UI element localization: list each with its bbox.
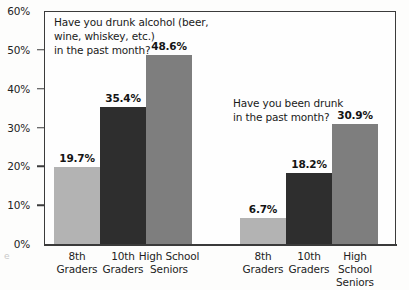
question-label-alcohol: Have you drunk alcohol (beer, wine, whis… xyxy=(54,15,209,58)
y-tick-label: 30% xyxy=(7,122,30,134)
x-category-label: 8th Graders xyxy=(57,250,98,276)
y-tick-label: 10% xyxy=(7,199,30,211)
bar xyxy=(100,107,146,244)
bar xyxy=(146,55,192,244)
bar-value-label: 19.7% xyxy=(59,152,94,164)
bar-value-label: 18.2% xyxy=(291,158,326,170)
x-category-label: 10th Graders xyxy=(103,250,144,276)
y-axis: 60%50%40%30%20%10%0% xyxy=(0,0,44,290)
bar xyxy=(286,173,332,244)
x-category-label: High School Seniors xyxy=(139,250,200,276)
x-category-label: 10th Graders xyxy=(289,250,330,276)
y-tick-label: 40% xyxy=(7,83,30,95)
x-category-label: 8th Graders xyxy=(243,250,284,276)
y-tick-label: 20% xyxy=(7,160,30,172)
bar xyxy=(332,124,378,244)
y-tick-label: 0% xyxy=(14,238,30,250)
bar xyxy=(240,218,286,244)
x-category-label: High School Seniors xyxy=(328,250,382,289)
bar-value-label: 6.7% xyxy=(249,203,277,215)
y-tick-label: 60% xyxy=(7,5,30,17)
bar-value-label: 35.4% xyxy=(105,92,140,104)
bar-chart-figure: 60%50%40%30%20%10%0% 19.7%35.4%48.6%6.7%… xyxy=(0,0,409,290)
question-label-drunk: Have you been drunk in the past month? xyxy=(233,96,343,124)
y-tick-label: 50% xyxy=(7,44,30,56)
bar xyxy=(54,167,100,244)
scan-artifact: e xyxy=(4,251,10,261)
